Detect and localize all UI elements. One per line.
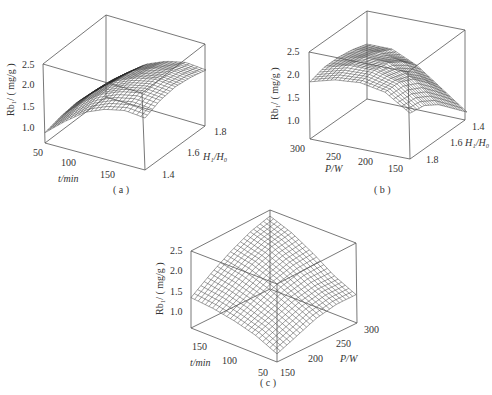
z-tick-a-1.0: 1.0 <box>22 122 35 133</box>
z-tick-a-2.0: 2.0 <box>22 79 35 90</box>
z-tick-b-1.0: 1.0 <box>287 115 300 126</box>
x-tick-c-150: 150 <box>192 341 207 352</box>
x-axis-label-c: t/min <box>190 357 211 368</box>
z-tick-c-1.5: 1.5 <box>170 286 183 297</box>
x-tick-b-150: 150 <box>388 163 403 174</box>
z-tick-c-2.0: 2.0 <box>170 265 183 276</box>
y-tick-c-200: 200 <box>308 353 323 364</box>
y-tick-c-150: 150 <box>280 367 295 378</box>
box-frame-a <box>43 15 205 170</box>
y-tick-a-1.8: 1.8 <box>214 126 227 137</box>
y-tick-c-300: 300 <box>364 324 379 335</box>
x-tick-a-50: 50 <box>33 147 43 158</box>
y-tick-c-250: 250 <box>336 338 351 349</box>
y-tick-b-1.6: 1.6 <box>450 137 463 148</box>
x-tick-c-100: 100 <box>222 355 237 366</box>
x-tick-a-150: 150 <box>100 169 115 180</box>
caption-a: ( a ) <box>113 184 129 196</box>
figure-canvas: 2.5 2.0 1.5 1.0 Rb₁/ ( mg/g ) 50 100 150… <box>0 0 492 395</box>
y-tick-b-1.4: 1.4 <box>472 121 485 132</box>
z-tick-a-2.5: 2.5 <box>22 59 35 70</box>
z-tick-a-1.5: 1.5 <box>22 101 35 112</box>
x-tick-a-100: 100 <box>61 157 76 168</box>
surface-mesh-a <box>45 61 206 132</box>
x-tick-b-250: 250 <box>326 151 341 162</box>
caption-b: ( b ) <box>374 184 391 196</box>
panel-c: 2.5 2.0 1.5 1.0 Rb₁/ ( mg/g ) 150 100 50… <box>154 210 379 389</box>
x-axis-label-a: t/min <box>58 173 79 184</box>
z-axis-label-b: Rb₁/ ( mg/g ) <box>269 67 281 120</box>
y-axis-label-b: H₁/H₀ <box>464 137 490 148</box>
y-axis-label-a: H₁/H₀ <box>202 151 228 162</box>
panel-b: 2.5 2.0 1.5 1.0 Rb₁/ ( mg/g ) 300 250 20… <box>269 11 490 196</box>
z-tick-b-2.0: 2.0 <box>287 69 300 80</box>
x-tick-b-200: 200 <box>358 156 373 167</box>
panel-a: 2.5 2.0 1.5 1.0 Rb₁/ ( mg/g ) 50 100 150… <box>5 15 228 196</box>
x-tick-b-300: 300 <box>290 143 305 154</box>
z-axis-label-a: Rb₁/ ( mg/g ) <box>5 63 17 116</box>
z-tick-c-2.5: 2.5 <box>170 245 183 256</box>
y-axis-label-c: P/W <box>339 353 359 364</box>
box-frame-c <box>191 210 357 362</box>
z-tick-b-1.5: 1.5 <box>287 92 300 103</box>
y-tick-b-1.8: 1.8 <box>426 154 439 165</box>
z-tick-c-1.0: 1.0 <box>170 306 183 317</box>
y-tick-a-1.4: 1.4 <box>162 169 175 180</box>
y-tick-a-1.6: 1.6 <box>187 147 200 158</box>
surface-mesh-c <box>191 216 356 354</box>
z-tick-b-2.5: 2.5 <box>287 46 300 57</box>
x-axis-label-b: P/W <box>324 163 344 174</box>
z-axis-label-c: Rb₁/ ( mg/g ) <box>154 262 166 315</box>
surface-mesh-b <box>310 44 467 113</box>
caption-c: ( c ) <box>260 377 276 389</box>
